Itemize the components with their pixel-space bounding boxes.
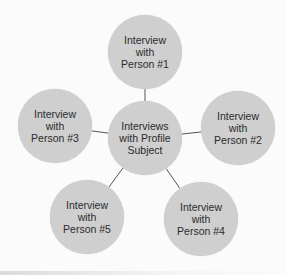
node-label-line: with bbox=[31, 120, 79, 132]
node-label-line: with Profile bbox=[119, 132, 170, 144]
node-person-3: InterviewwithPerson #3 bbox=[18, 89, 92, 163]
connector-line-person-2 bbox=[182, 132, 201, 134]
node-label-line: Interview bbox=[31, 108, 79, 120]
node-label: InterviewwithPerson #4 bbox=[177, 201, 225, 237]
node-label-line: with bbox=[214, 122, 262, 134]
node-label: Interviewswith ProfileSubject bbox=[119, 120, 170, 156]
node-person-5: InterviewwithPerson #5 bbox=[50, 180, 124, 254]
connector-line-person-3 bbox=[92, 131, 109, 133]
node-label-line: Interviews bbox=[119, 120, 170, 132]
node-label-line: with bbox=[63, 211, 111, 223]
node-label: InterviewwithPerson #3 bbox=[31, 108, 79, 144]
node-label-line: with bbox=[177, 213, 225, 225]
page-edge-rule bbox=[0, 271, 287, 275]
center-node-profile-subject: Interviewswith ProfileSubject bbox=[108, 101, 182, 175]
connector-line-person-4 bbox=[166, 168, 180, 188]
node-label-line: Interview bbox=[177, 201, 225, 213]
node-label-line: Person #4 bbox=[177, 225, 225, 237]
node-label-line: Person #5 bbox=[63, 223, 111, 235]
node-label-line: Interview bbox=[121, 34, 169, 46]
node-person-4: InterviewwithPerson #4 bbox=[164, 182, 238, 256]
connector-line-person-5 bbox=[109, 168, 123, 187]
node-label-line: Person #2 bbox=[214, 134, 262, 146]
node-label: InterviewwithPerson #5 bbox=[63, 199, 111, 235]
node-person-2: InterviewwithPerson #2 bbox=[201, 91, 275, 165]
node-label-line: Subject bbox=[119, 144, 170, 156]
node-label-line: Person #3 bbox=[31, 132, 79, 144]
node-label-line: Interview bbox=[63, 199, 111, 211]
node-person-1: InterviewwithPerson #1 bbox=[108, 15, 182, 89]
node-label-line: with bbox=[121, 46, 169, 58]
node-label-line: Person #1 bbox=[121, 58, 169, 70]
node-label: InterviewwithPerson #1 bbox=[121, 34, 169, 70]
node-label: InterviewwithPerson #2 bbox=[214, 110, 262, 146]
node-label-line: Interview bbox=[214, 110, 262, 122]
